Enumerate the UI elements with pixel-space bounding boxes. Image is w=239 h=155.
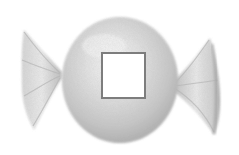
left-wrapper-twist <box>22 30 62 130</box>
blank-square-label <box>101 52 146 99</box>
right-wrapper-twist <box>172 38 220 135</box>
